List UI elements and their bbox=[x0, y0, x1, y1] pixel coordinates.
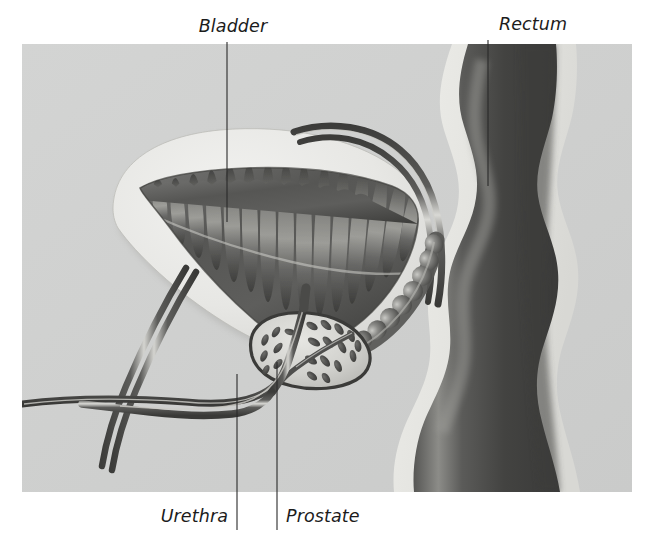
label-urethra: Urethra bbox=[161, 506, 228, 526]
bladder-neck bbox=[304, 288, 306, 308]
anatomy-illustration-canvas: Bladder Rectum Urethra Prostate bbox=[0, 0, 650, 553]
label-bladder: Bladder bbox=[199, 16, 269, 36]
label-prostate: Prostate bbox=[286, 506, 360, 526]
anatomy-figure: Bladder Rectum Urethra Prostate bbox=[0, 0, 650, 553]
label-rectum: Rectum bbox=[499, 14, 567, 34]
